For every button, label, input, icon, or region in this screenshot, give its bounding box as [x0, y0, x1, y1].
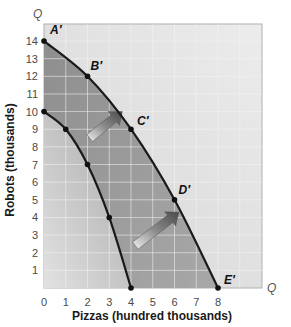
x-axis-ticks: 012345678 — [41, 296, 221, 308]
svg-text:B′: B′ — [91, 59, 104, 73]
x-axis-end-label: Q — [267, 281, 276, 295]
svg-text:8: 8 — [215, 296, 221, 308]
svg-text:6: 6 — [32, 176, 38, 188]
svg-text:14: 14 — [26, 35, 38, 47]
svg-text:7: 7 — [193, 296, 199, 308]
svg-text:4: 4 — [128, 296, 134, 308]
svg-text:7: 7 — [32, 159, 38, 171]
x-axis-title: Pizzas (hundred thousands) — [72, 309, 232, 323]
svg-text:11: 11 — [27, 88, 38, 100]
svg-text:12: 12 — [26, 70, 38, 82]
svg-text:6: 6 — [171, 296, 177, 308]
svg-text:2: 2 — [32, 247, 38, 259]
ppf-chart: A′B′C′D′E′ 012345678 1234567891011121314… — [0, 0, 291, 327]
svg-text:C′: C′ — [137, 114, 150, 128]
y-axis-end-label: Q — [33, 7, 42, 21]
svg-text:3: 3 — [32, 229, 38, 241]
svg-text:0: 0 — [41, 296, 47, 308]
y-axis-title: Robots (thousands) — [3, 103, 17, 216]
svg-text:10: 10 — [26, 106, 38, 118]
svg-text:5: 5 — [150, 296, 156, 308]
svg-text:8: 8 — [32, 141, 38, 153]
svg-text:5: 5 — [32, 194, 38, 206]
svg-text:1: 1 — [32, 264, 38, 276]
y-axis-ticks: 1234567891011121314 — [26, 35, 38, 276]
svg-text:A′: A′ — [49, 23, 63, 37]
svg-text:1: 1 — [63, 296, 69, 308]
svg-text:13: 13 — [26, 53, 38, 65]
svg-text:9: 9 — [32, 123, 38, 135]
svg-text:3: 3 — [106, 296, 112, 308]
svg-text:D′: D′ — [179, 183, 192, 197]
svg-text:E′: E′ — [224, 273, 236, 287]
svg-text:2: 2 — [84, 296, 90, 308]
svg-text:4: 4 — [32, 211, 38, 223]
